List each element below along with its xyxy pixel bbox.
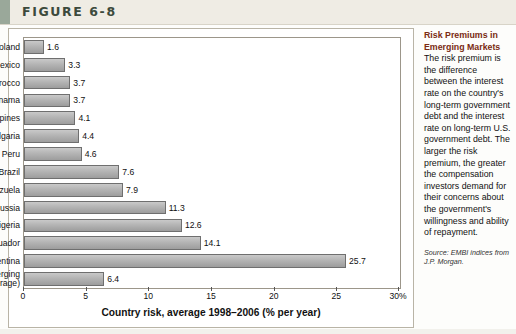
bar bbox=[24, 219, 182, 233]
sidebar-source: Source: EMBI indices from J.P. Morgan. bbox=[424, 248, 512, 266]
bar bbox=[24, 111, 75, 125]
bar-category-label: Panama bbox=[0, 95, 24, 105]
bar-row: Russia11.3 bbox=[24, 199, 400, 217]
bar-value-label: 4.1 bbox=[75, 113, 90, 123]
x-axis-tick-label: 10 bbox=[144, 291, 154, 301]
plot-frame: Poland1.6Mexico3.3Morocco3.7Panama3.7Phi… bbox=[23, 37, 401, 289]
bar-row: Morocco3.7 bbox=[24, 74, 400, 92]
sidebar-text: Risk Premiums in Emerging Markets The ri… bbox=[424, 30, 512, 239]
x-axis: Country risk, average 1998–2006 (% per y… bbox=[23, 287, 399, 327]
bar-category-label: Poland bbox=[0, 42, 24, 52]
bar-value-label: 3.7 bbox=[70, 78, 85, 88]
bar-category-label: Philippines bbox=[0, 113, 24, 123]
header-accent-bar bbox=[0, 0, 10, 24]
bar bbox=[24, 254, 346, 268]
bar bbox=[24, 76, 70, 90]
bar bbox=[24, 165, 119, 179]
sidebar-body: The risk premium is the difference betwe… bbox=[424, 53, 511, 237]
bar-row: Philippines4.1 bbox=[24, 109, 400, 127]
bar-row: All emergingmarkets (average)6.4 bbox=[24, 270, 400, 288]
bar-value-label: 4.6 bbox=[82, 149, 97, 159]
bar-value-label: 4.4 bbox=[79, 131, 94, 141]
bar-category-label: Argentina bbox=[0, 256, 24, 266]
bar-category-label: Nigeria bbox=[0, 220, 24, 230]
bar-category-label: Russia bbox=[0, 203, 24, 213]
bar-row: Brazil7.6 bbox=[24, 163, 400, 181]
sidebar-title: Risk Premiums in Emerging Markets bbox=[424, 30, 500, 52]
x-axis-title: Country risk, average 1998–2006 (% per y… bbox=[23, 307, 399, 318]
bar bbox=[24, 183, 123, 197]
bar-row: Panama3.7 bbox=[24, 92, 400, 110]
bar-value-label: 3.3 bbox=[65, 60, 80, 70]
bar-value-label: 1.6 bbox=[44, 42, 59, 52]
bar-value-label: 14.1 bbox=[201, 238, 221, 248]
bar bbox=[24, 201, 166, 215]
bar-category-label: Mexico bbox=[0, 60, 24, 70]
bar-row: Mexico3.3 bbox=[24, 56, 400, 74]
sidebar-note: Risk Premiums in Emerging Markets The ri… bbox=[424, 30, 512, 266]
bar-value-label: 11.3 bbox=[166, 203, 185, 213]
bar-value-label: 25.7 bbox=[346, 256, 366, 266]
bar bbox=[24, 129, 79, 143]
bar bbox=[24, 236, 201, 250]
scan-edge bbox=[0, 329, 516, 334]
bar bbox=[24, 40, 44, 54]
bar-row: Ecuador14.1 bbox=[24, 234, 400, 252]
figure-header-band: FIGURE 6-8 bbox=[0, 0, 516, 25]
bar-category-label: All emergingmarkets (average) bbox=[0, 269, 24, 288]
bar-category-label: Morocco bbox=[0, 78, 24, 88]
figure-label: FIGURE 6-8 bbox=[22, 4, 117, 19]
x-axis-tick-label: 15 bbox=[206, 291, 216, 301]
figure-page: FIGURE 6-8 Poland1.6Mexico3.3Morocco3.7P… bbox=[0, 0, 516, 334]
x-axis-tick-label: 5 bbox=[83, 291, 88, 301]
x-axis-tick-label: 0 bbox=[21, 291, 26, 301]
bar-row: Poland1.6 bbox=[24, 38, 400, 56]
x-axis-tick-label: 25 bbox=[332, 291, 342, 301]
bar-row: Nigeria12.6 bbox=[24, 216, 400, 234]
bar-category-label: Peru bbox=[0, 149, 24, 159]
bar-rows: Poland1.6Mexico3.3Morocco3.7Panama3.7Phi… bbox=[24, 38, 400, 288]
bar-value-label: 12.6 bbox=[182, 220, 202, 230]
bar bbox=[24, 272, 104, 286]
x-axis-tick-label: 20 bbox=[269, 291, 279, 301]
bar-category-label: Venezuela bbox=[0, 185, 24, 195]
bar-row: Venezuela7.9 bbox=[24, 181, 400, 199]
bar-value-label: 7.6 bbox=[119, 167, 134, 177]
bar-category-label: Ecuador bbox=[0, 238, 24, 248]
bar-row: Peru4.6 bbox=[24, 145, 400, 163]
bar-category-label: Brazil bbox=[0, 167, 24, 177]
bar-row: Argentina25.7 bbox=[24, 252, 400, 270]
bar-category-label: Bulgaria bbox=[0, 131, 24, 141]
bar-value-label: 6.4 bbox=[104, 274, 119, 284]
bar-value-label: 3.7 bbox=[70, 95, 85, 105]
bar-row: Bulgaria4.4 bbox=[24, 127, 400, 145]
x-axis-tick-label: 30% bbox=[389, 291, 406, 301]
bar bbox=[24, 58, 65, 72]
chart-panel: Poland1.6Mexico3.3Morocco3.7Panama3.7Phi… bbox=[8, 28, 414, 328]
bar bbox=[24, 147, 82, 161]
bar-value-label: 7.9 bbox=[123, 185, 138, 195]
bar bbox=[24, 94, 70, 108]
